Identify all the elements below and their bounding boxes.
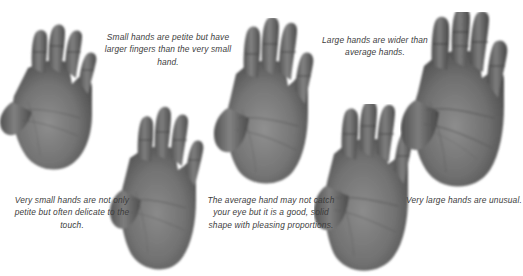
small-hand-photo [108,104,208,276]
caption-small-hand: Small hands are petite but have larger f… [104,31,232,68]
caption-average-hand: The average hand may not catch your eye … [206,194,336,231]
caption-very-small-hand: Very small hands are not only petite but… [6,194,138,231]
hand-size-comparison-figure: Small hands are petite but have larger f… [0,0,523,276]
caption-very-large-hand: Very large hands are unusual. [404,194,523,206]
caption-large-hand: Large hands are wider than average hands… [320,34,430,59]
very-small-hand-photo [0,22,110,174]
